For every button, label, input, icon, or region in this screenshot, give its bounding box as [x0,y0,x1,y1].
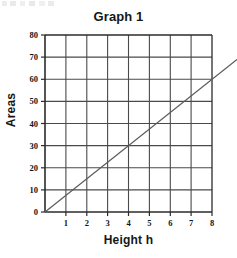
y-tick-label: 40 [30,119,39,129]
x-tick-labels: 1 2 3 4 5 6 7 8 [64,218,214,228]
x-tick-label: 1 [64,218,68,228]
y-tick-label: 70 [30,52,39,62]
data-series-line [45,59,237,212]
y-tick-label: 20 [30,163,39,173]
y-tick-label: 10 [30,185,39,195]
y-tick-label: 60 [30,74,39,84]
y-tick-label: 0 [34,207,38,217]
x-tick-label: 2 [85,218,89,228]
graph-figure: Graph 1 Areas Height h [0,0,237,258]
x-tick-label: 5 [147,218,151,228]
x-tick-label: 7 [189,218,194,228]
x-tick-label: 6 [168,218,172,228]
plot-area: 80 70 60 50 40 30 20 10 0 1 2 3 4 5 6 7 … [0,0,237,258]
y-tick-labels: 80 70 60 50 40 30 20 10 0 [30,30,39,217]
x-tick-label: 8 [210,218,214,228]
y-tick-label: 80 [30,30,39,40]
x-tick-label: 3 [105,218,109,228]
y-tick-label: 30 [30,141,39,151]
x-tick-label: 4 [126,218,131,228]
y-tick-label: 50 [30,96,39,106]
